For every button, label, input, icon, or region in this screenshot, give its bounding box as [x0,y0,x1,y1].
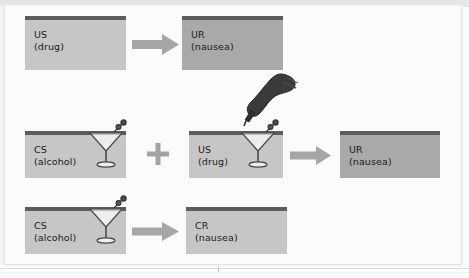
box-us-drug-top: US (drug) [25,16,126,70]
box-cs-alcohol-mid-detail: (alcohol) [34,156,76,169]
martini-glass-icon [84,195,128,249]
box-cs-alcohol-bottom-detail: (alcohol) [34,232,76,245]
box-ur-nausea-top-detail: (nausea) [191,41,234,54]
bottom-divider [0,268,469,269]
box-ur-nausea-mid-detail: (nausea) [349,156,392,169]
box-cr-nausea-bottom-detail: (nausea) [195,232,238,245]
box-cs-alcohol-mid-label: CS [34,144,47,157]
box-us-drug-mid-label: US [198,144,211,157]
box-us-drug-top-label: US [34,29,47,42]
arrow-row2 [290,146,332,165]
box-ur-nausea-top: UR (nausea) [182,16,283,70]
hand-with-dropper-icon [238,70,300,136]
martini-glass-icon [84,119,128,173]
arrow-row1 [132,34,180,55]
box-ur-nausea-mid: UR (nausea) [340,131,440,178]
box-us-drug-mid-detail: (drug) [198,156,228,169]
box-ur-nausea-top-label: UR [191,29,205,42]
box-cs-alcohol-bottom-label: CS [34,220,47,233]
box-cr-nausea-bottom-label: CR [195,220,208,233]
arrow-row3 [132,222,180,241]
bottom-divider-secondary [0,272,469,273]
plus-symbol [146,142,170,170]
box-cr-nausea-bottom: CR (nausea) [186,207,287,254]
box-ur-nausea-mid-label: UR [349,144,363,157]
diagram-page: US (drug) UR (nausea) CS (alcohol) [0,0,469,278]
box-us-drug-top-detail: (drug) [34,41,64,54]
